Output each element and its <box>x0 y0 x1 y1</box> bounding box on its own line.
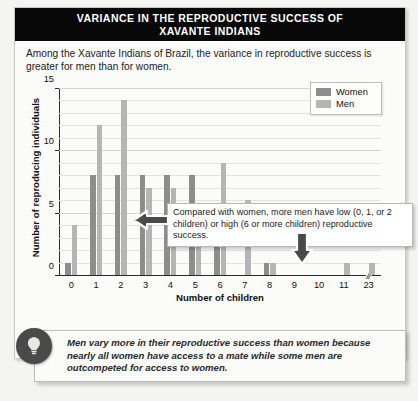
x-tick-label: 0 <box>69 280 74 290</box>
legend-label-men: Men <box>336 99 354 110</box>
legend-swatch-men-icon <box>316 100 331 108</box>
x-tick-label: 7 <box>242 280 247 290</box>
x-tick-label: 6 <box>217 280 222 290</box>
chart-plot-area: Number of reproducing individuals 051015… <box>15 80 407 320</box>
y-tick-mark <box>55 88 59 89</box>
gridline <box>59 138 381 139</box>
figure-title-line-2: XAVANTE INDIANS <box>159 25 260 38</box>
y-axis-line <box>59 88 60 276</box>
x-tick-label: 1 <box>94 280 99 290</box>
x-tick-label: 10 <box>314 280 324 290</box>
figure-card: VARIANCE IN THE REPRODUCTIVE SUCCESS OF … <box>14 7 406 359</box>
bar-women-8 <box>264 263 270 275</box>
legend-label-women: Women <box>336 87 368 98</box>
x-tick-label: 8 <box>267 280 272 290</box>
bar-women-1 <box>90 175 96 275</box>
chart-legend: Women Men <box>310 82 382 115</box>
x-axis-line <box>59 275 381 276</box>
y-tick-mark <box>55 275 59 276</box>
x-tick-label: 2 <box>118 280 123 290</box>
bar-men-2 <box>121 100 127 275</box>
y-tick-label: 15 <box>44 74 54 84</box>
y-tick-label: 0 <box>49 261 54 271</box>
bar-men-1 <box>97 125 103 275</box>
gridline <box>59 125 381 126</box>
y-tick-mark <box>55 150 59 151</box>
figure-title-line-1: VARIANCE IN THE REPRODUCTIVE SUCCESS OF <box>77 12 343 25</box>
x-tick-label: 4 <box>168 280 173 290</box>
x-tick-label: 23 <box>363 280 373 290</box>
x-tick-label: 9 <box>292 280 297 290</box>
x-tick-label: 3 <box>143 280 148 290</box>
bar-men-23 <box>369 263 375 275</box>
gridline <box>59 150 381 151</box>
lightbulb-icon <box>16 328 52 364</box>
bar-men-8 <box>270 263 276 275</box>
arrow-left-icon <box>132 208 170 232</box>
plot-inner: 05101501234567891011//23 <box>59 88 381 276</box>
x-tick-label: 11 <box>339 280 349 290</box>
y-axis-title: Number of reproducing individuals <box>30 98 41 258</box>
y-tick-label: 5 <box>49 199 54 209</box>
bar-men-11 <box>344 263 350 275</box>
bar-women-2 <box>115 175 121 275</box>
bar-men-0 <box>72 225 78 275</box>
legend-swatch-women-icon <box>316 88 331 96</box>
legend-item-men: Men <box>316 98 376 110</box>
y-tick-mark <box>55 213 59 214</box>
tip-callout: Men vary more in their reproductive succ… <box>34 330 406 382</box>
x-tick-label: 5 <box>193 280 198 290</box>
figure-title-bar: VARIANCE IN THE REPRODUCTIVE SUCCESS OF … <box>15 8 405 41</box>
bar-women-0 <box>65 263 71 275</box>
y-tick-label: 10 <box>44 136 54 146</box>
arrow-down-icon <box>289 230 315 266</box>
legend-item-women: Women <box>316 86 376 98</box>
figure-root: VARIANCE IN THE REPRODUCTIVE SUCCESS OF … <box>0 0 418 401</box>
x-axis-title: Number of children <box>59 292 381 303</box>
intro-paragraph: Among the Xavante Indians of Brazil, the… <box>26 47 394 73</box>
